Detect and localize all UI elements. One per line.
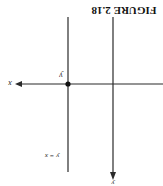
figure-canvas: FIGURE 2.18 y x y y = x	[0, 0, 163, 186]
figure-caption: FIGURE 2.18	[91, 5, 156, 17]
horizontal-axis-arrow-icon	[15, 81, 22, 87]
intersection-point	[65, 81, 70, 86]
vertical-axis-arrow-icon	[110, 172, 116, 180]
vertical-axis-label: y	[111, 179, 116, 186]
line-label: y = x	[44, 152, 60, 160]
horizontal-axis-label: x	[8, 79, 13, 88]
point-label: y	[59, 71, 64, 80]
figure-diagram: FIGURE 2.18 y x y y = x	[0, 0, 163, 186]
